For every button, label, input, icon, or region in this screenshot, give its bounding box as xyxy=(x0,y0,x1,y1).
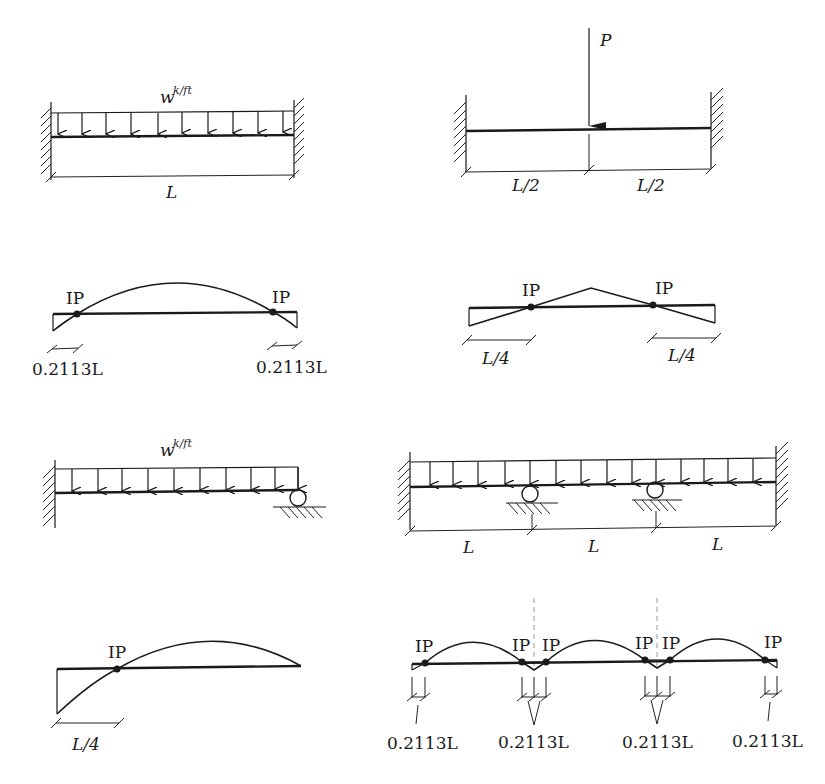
udl-arrows xyxy=(72,467,298,491)
ground-hatch xyxy=(634,500,676,511)
inflection-point-marker xyxy=(650,302,657,309)
ip-label-1: IP xyxy=(415,636,433,656)
fixed-fixed-point-moment-diagram: IP IP L/4 L/4 xyxy=(462,278,721,368)
left-span-label: L/2 xyxy=(511,175,540,195)
inflection-point-marker xyxy=(114,666,121,673)
fixed-fixed-udl-diagram: w k/ft L xyxy=(41,84,304,202)
right-ip-label: IP xyxy=(272,287,290,307)
left-ip-label: IP xyxy=(66,288,84,308)
dim-label-2: 0.2113L xyxy=(498,732,569,752)
load-unit: k/ft xyxy=(173,84,192,97)
udl-arrows xyxy=(58,111,283,134)
three-span-udl-diagram: L L L xyxy=(398,442,788,557)
ground-hatch xyxy=(280,507,322,518)
propped-cantilever-moment-diagram: IP L/4 xyxy=(51,641,301,754)
span-label-3: L xyxy=(711,534,723,554)
left-ip-label: IP xyxy=(522,280,540,300)
left-fixed-support-hatch xyxy=(41,108,51,174)
left-fixed-support-hatch xyxy=(454,102,466,162)
roller-support-1 xyxy=(522,486,538,502)
dim-label-3: 0.2113L xyxy=(622,732,693,752)
span-label: L xyxy=(165,182,177,202)
inflection-point-marker xyxy=(74,311,81,318)
dim-label-4: 0.2113L xyxy=(732,731,803,751)
roller-support xyxy=(290,490,306,506)
right-fixed-support-hatch xyxy=(711,88,723,148)
span-label-2: L xyxy=(587,536,599,556)
right-span-label: L/2 xyxy=(636,175,665,195)
ip-label-4: IP xyxy=(635,633,653,653)
right-ip-label: IP xyxy=(655,278,673,298)
ip-label-3: IP xyxy=(542,635,560,655)
point-load-label: P xyxy=(599,30,612,50)
right-fixed-support-hatch xyxy=(294,98,304,164)
fixed-fixed-point-load-diagram: P L/2 L/2 xyxy=(454,28,723,195)
fixed-fixed-udl-moment-diagram: IP IP 0.2113L 0.2113L xyxy=(32,283,327,379)
ip-label-5: IP xyxy=(662,633,680,653)
inflection-point-marker xyxy=(270,309,277,316)
right-dim-label: L/4 xyxy=(667,345,696,365)
ip-label-6: IP xyxy=(764,632,782,652)
ground-hatch xyxy=(508,503,550,514)
ip-label-2: IP xyxy=(512,635,530,655)
dim-label-1: 0.2113L xyxy=(387,733,458,753)
udl-arrows xyxy=(430,459,753,485)
right-fixed-support-hatch xyxy=(776,442,788,510)
span-label-1: L xyxy=(462,537,474,557)
load-unit: k/ft xyxy=(173,437,192,450)
three-span-moment-diagram: IP IP IP IP IP IP xyxy=(387,598,803,753)
fixed-support-hatch xyxy=(43,466,55,526)
inflection-point-marker xyxy=(528,304,535,311)
propped-cantilever-udl-diagram: w k/ft xyxy=(43,437,326,528)
left-dim-label: L/4 xyxy=(481,348,510,368)
right-dim-label: 0.2113L xyxy=(256,357,327,377)
left-fixed-support-hatch xyxy=(398,460,410,520)
dim-label: L/4 xyxy=(71,734,100,754)
ip-label: IP xyxy=(108,642,126,662)
left-dim-label: 0.2113L xyxy=(32,359,103,379)
